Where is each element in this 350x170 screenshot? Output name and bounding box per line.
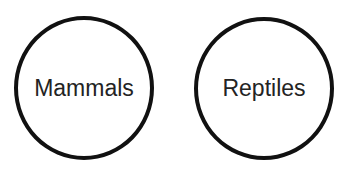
set-label-reptiles: Reptiles <box>222 77 305 100</box>
set-circle-mammals: Mammals <box>14 16 154 160</box>
set-label-mammals: Mammals <box>34 77 134 100</box>
set-circle-reptiles: Reptiles <box>194 17 334 160</box>
